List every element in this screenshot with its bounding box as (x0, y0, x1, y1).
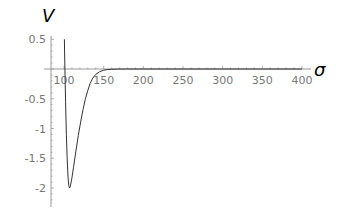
y-tick-label: -1.5 (25, 152, 46, 165)
x-tick-label: 300 (212, 74, 233, 87)
axes (44, 36, 311, 207)
chart: 1001502002503003504000.5-0.5-1-1.5-2 V σ (0, 0, 344, 218)
y-tick-label: 0.5 (29, 33, 47, 46)
x-axis-title: σ (314, 59, 326, 80)
x-tick-label: 200 (133, 74, 154, 87)
y-tick-label: -2 (35, 182, 46, 195)
y-axis-title: V (42, 5, 56, 26)
x-tick-label: 250 (173, 74, 194, 87)
x-tick-label: 100 (54, 74, 75, 87)
x-tick-label: 400 (292, 74, 313, 87)
x-tick-label: 350 (252, 74, 273, 87)
x-tick-label: 150 (93, 74, 114, 87)
y-tick-label: -1 (35, 123, 46, 136)
y-tick-label: -0.5 (25, 93, 46, 106)
potential-curve (64, 39, 302, 188)
